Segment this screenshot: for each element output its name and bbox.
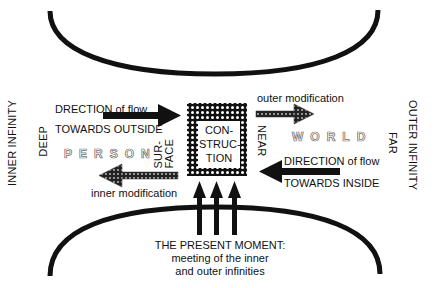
world-region-label: WORLD [292,130,372,144]
present-moment-line3: and outer infinities [140,265,300,278]
flow-outside-label-bottom: TOWARDS OUTSIDE [55,123,163,135]
present-moment-line2: meeting of the inner [140,252,300,265]
surface-label-line2: FACE [163,139,175,169]
construction-line2: STRUC- [199,137,239,151]
outer-modification-arrow [256,104,314,124]
deep-label: DEEP [37,126,49,157]
flow-outside-label-top: DRECTION of flow [55,103,147,115]
flow-inside-label-bottom: TOWARDS INSIDE [284,177,379,189]
present-moment-caption: THE PRESENT MOMENT: meeting of the inner… [140,239,300,278]
construction-line3: TION [199,151,239,165]
outer-infinity-label: OUTER INFINITY [407,100,419,190]
far-label: FAR [387,132,399,154]
inner-modification-label: inner modification [91,187,177,199]
construction-line1: CON- [199,123,239,137]
flow-inside-label-top: DIRECTION of flow [284,155,379,167]
person-region-label: PERSON [64,147,157,161]
outer-modification-label: outer modification [257,92,344,104]
inner-infinity-label: INNER INFINITY [6,100,18,186]
surface-label: SUR- FACE [153,139,175,169]
upper-boundary-curve [50,10,378,74]
near-label: NEAR [256,125,268,156]
present-moment-arrows [193,181,241,235]
construction-label: CON- STRUC- TION [199,123,239,165]
present-moment-title: THE PRESENT MOMENT: [140,239,300,252]
